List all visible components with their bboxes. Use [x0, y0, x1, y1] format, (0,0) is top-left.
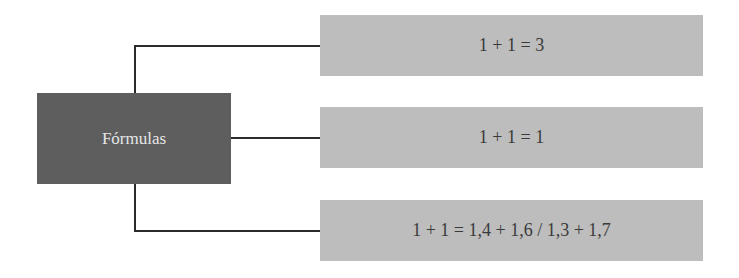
root-node-formulas: Fórmulas	[37, 93, 231, 184]
connector-bottom-horizontal	[134, 230, 320, 232]
branch-node-label: 1 + 1 = 3	[479, 35, 544, 56]
connector-top-horizontal	[134, 45, 320, 47]
root-node-label: Fórmulas	[102, 129, 166, 149]
connector-middle-horizontal	[231, 137, 320, 139]
branch-node-label: 1 + 1 = 1,4 + 1,6 / 1,3 + 1,7	[412, 220, 611, 241]
branch-node-1: 1 + 1 = 3	[320, 15, 703, 76]
branch-node-2: 1 + 1 = 1	[320, 107, 703, 168]
branch-node-label: 1 + 1 = 1	[479, 127, 544, 148]
connector-top-vertical	[134, 45, 136, 93]
branch-node-3: 1 + 1 = 1,4 + 1,6 / 1,3 + 1,7	[320, 200, 703, 261]
connector-bottom-vertical	[134, 184, 136, 232]
